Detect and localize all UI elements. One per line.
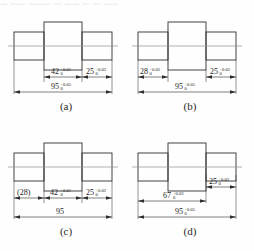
panel-a-caption: (a): [6, 100, 126, 112]
panel-c-dim-42: 42 +0.01 0: [44, 188, 82, 200]
figure-sheet: ― ―― ――― ― ―― ― ― ―― 42 +0.01: [0, 0, 254, 251]
panel-b: 28 +0.02 0 25 +0.02 0 95 +0.05 0 (b): [130, 14, 250, 114]
panel-b-dim-25: 25 +0.02 0: [206, 67, 236, 79]
panel-b-dim-28-value: 28: [140, 67, 148, 76]
panel-b-dim-25-value: 25: [210, 67, 218, 76]
panel-d-dim-67-value: 67: [163, 191, 171, 200]
panel-d-caption: (d): [130, 225, 250, 237]
panel-c: (28) 42 +0.01 0 25 +0.02 0: [6, 135, 126, 240]
panel-a-dim-25-value: 25: [86, 67, 94, 76]
panel-b-dim-28: 28 +0.02 0: [138, 67, 168, 79]
panel-d-dim-25: 25 +0.02 0: [206, 177, 236, 189]
panel-d-dim-25-value: 25: [209, 177, 217, 186]
panel-d-dim-95-value: 95: [175, 207, 183, 216]
panel-a-dim-25: 25 +0.02 0: [82, 67, 112, 79]
panel-a: 42 +0.01 0 25 +0.02 0 95 +0.05 0 (a): [6, 14, 126, 114]
panel-b-caption: (b): [130, 100, 250, 112]
panel-c-dim-25-value: 25: [86, 188, 94, 197]
panel-c-dim-95-value: 95: [56, 207, 64, 216]
panel-a-dim-95-value: 95: [51, 82, 59, 91]
panel-c-caption: (c): [6, 225, 126, 237]
panel-d-dim-67: 67 +0.03 0: [138, 191, 206, 203]
panel-b-dim-95-value: 95: [175, 82, 183, 91]
panel-d: 25 +0.02 0 67 +0.03 0 95 +0.05 0 (d): [130, 135, 250, 240]
panel-c-dim-42-value: 42: [50, 188, 58, 197]
panel-c-dim-25: 25 +0.02 0: [82, 188, 112, 200]
panel-c-dim-95: 95: [14, 207, 112, 219]
panel-d-dim-95: 95 +0.05 0: [138, 207, 236, 219]
panel-c-dim-28-reference: (28): [14, 188, 44, 200]
top-partial-text-strip: ― ―― ――― ― ―― ― ― ――: [0, 0, 254, 9]
panel-a-dim-42-value: 42: [51, 67, 59, 76]
panel-a-dim-95: 95 +0.05 0: [14, 82, 112, 94]
panel-a-dim-42: 42 +0.01 0: [44, 67, 82, 79]
panel-c-dim-28-value: (28): [17, 188, 31, 197]
panel-b-dim-95: 95 +0.05 0: [138, 82, 236, 94]
